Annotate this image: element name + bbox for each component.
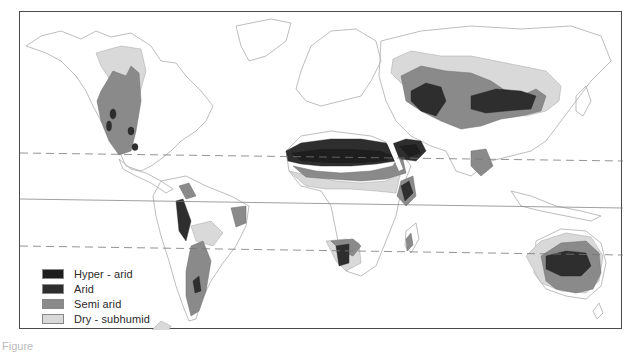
legend-item-dry-subhumid: Dry - subhumid (42, 311, 150, 326)
legend-label: Semi arid (74, 298, 121, 310)
semi-arid-swatch (42, 299, 64, 309)
legend-label: Dry - subhumid (74, 313, 150, 325)
legend-label: Hyper - arid (74, 268, 133, 280)
map-legend: Hyper - arid Arid Semi arid Dry - subhum… (42, 266, 150, 326)
equator-line (20, 199, 623, 208)
legend-item-hyper-arid: Hyper - arid (42, 266, 150, 281)
legend-item-arid: Arid (42, 281, 150, 296)
arid-swatch (42, 284, 64, 294)
new-zealand-outline (593, 303, 603, 319)
greenland-outline (236, 19, 291, 61)
hyper-arid-swatch (42, 269, 64, 279)
southeast-asia-outline (511, 191, 601, 221)
legend-item-semi-arid: Semi arid (42, 296, 150, 311)
dry-subhumid-swatch (42, 314, 64, 324)
legend-label: Arid (74, 283, 94, 295)
central-america-outline (119, 159, 173, 193)
europe-outline (296, 29, 381, 106)
figure-caption: Figure (2, 340, 33, 352)
